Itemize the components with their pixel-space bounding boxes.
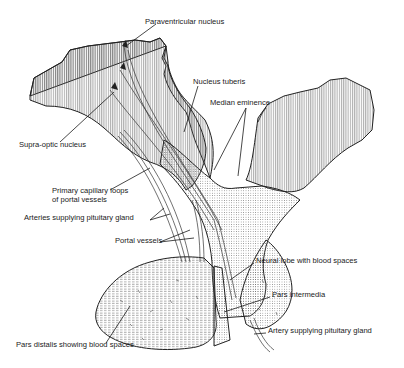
hypothalamus-right (246, 78, 374, 192)
label-primary-capillary-loops: Primary capillary loops (52, 186, 129, 195)
label-pars-intermedia: Pars intermedia (272, 290, 326, 299)
label-of-portal-vessels: of portal vessels (52, 195, 107, 204)
label-portal-vessels: Portal vessels (115, 236, 162, 245)
label-paraventricular-nucleus: Paraventricular nucleus (145, 17, 225, 26)
label-nucleus-tuberis: Nucleus tuberis (193, 77, 246, 86)
hypothalamus-pituitary-diagram: Paraventricular nucleus Nucleus tuberis … (0, 0, 404, 368)
pars-distalis (96, 257, 217, 350)
label-supra-optic-nucleus: Supra-optic nucleus (19, 140, 86, 149)
label-arteries-supplying-pituitary: Arteries supplying pituitary gland (24, 213, 134, 222)
label-pars-distalis: Pars distalis showing blood spaces (16, 340, 134, 349)
label-neural-lobe: Neural lobe with blood spaces (256, 256, 358, 265)
label-median-eminence: Median eminence (210, 98, 270, 107)
label-artery-supplying-pituitary: Artery supplying pituitary gland (268, 326, 372, 335)
